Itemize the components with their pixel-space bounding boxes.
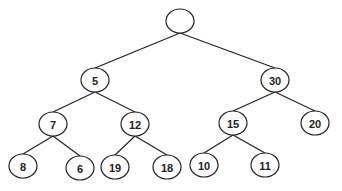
node-label: 7 — [50, 119, 56, 131]
node-label: 15 — [227, 118, 239, 130]
node-label: 20 — [309, 118, 321, 130]
edge-n7-n6 — [53, 136, 80, 156]
edge-n15-n11 — [233, 135, 265, 153]
tree-node-30: 30 — [261, 68, 289, 92]
edge-n12-n18 — [135, 136, 167, 155]
edge-root-n30 — [180, 33, 275, 68]
edge-n12-n19 — [115, 136, 135, 155]
binary-tree-diagram: 53071215208619181011 — [0, 0, 342, 191]
tree-edges — [23, 33, 315, 156]
node-label: 5 — [92, 75, 98, 87]
tree-node-18: 18 — [153, 155, 181, 179]
node-label: 8 — [20, 161, 26, 173]
node-label: 6 — [77, 163, 83, 175]
edge-n15-n10 — [204, 135, 233, 153]
edge-n7-n8 — [23, 136, 53, 154]
tree-node-5: 5 — [81, 68, 109, 92]
tree-node-20: 20 — [301, 111, 329, 135]
node-label: 18 — [161, 162, 173, 174]
node-label: 10 — [198, 160, 210, 172]
node-label: 12 — [129, 119, 141, 131]
edge-n30-n20 — [275, 92, 315, 111]
edge-root-n5 — [95, 33, 180, 68]
tree-node-10: 10 — [190, 153, 218, 177]
tree-node-6: 6 — [66, 156, 94, 180]
tree-node-15: 15 — [219, 111, 247, 135]
tree-node-19: 19 — [101, 155, 129, 179]
tree-node-7: 7 — [39, 112, 67, 136]
edge-n5-n7 — [53, 92, 95, 112]
edge-n30-n15 — [233, 92, 275, 111]
edge-n5-n12 — [95, 92, 135, 112]
node-label: 19 — [109, 162, 121, 174]
tree-node-8: 8 — [9, 154, 37, 178]
tree-node-root-empty — [166, 9, 194, 33]
tree-node-11: 11 — [251, 153, 279, 177]
tree-node-12: 12 — [121, 112, 149, 136]
node-circle — [166, 9, 194, 33]
node-label: 30 — [269, 75, 281, 87]
node-label: 11 — [259, 160, 271, 172]
